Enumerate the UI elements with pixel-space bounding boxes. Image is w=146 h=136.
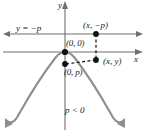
x-axis-label: x [134,55,138,64]
focus-label: (0, p) [64,68,82,77]
y-axis-arrowhead [62,1,68,9]
vertex-label: (0, 0) [66,39,84,48]
y-axis-label: y [58,1,62,10]
point-on-curve [93,57,99,63]
directrix-left-arrowhead [3,31,10,37]
parabola-figure: y = −p (x, −p) (0, 0) (x, y) (0, p) p < … [0,0,146,136]
directrix-right-arrowhead [136,31,143,37]
point-on-curve-label: (x, y) [103,57,121,66]
condition-label: p < 0 [65,106,85,115]
directrix-label: y = −p [16,24,41,33]
x-axis-line [3,49,143,55]
point-vertex [62,49,68,55]
focal-chord-dashed [66,60,95,64]
point-on-directrix [93,31,99,37]
point-on-directrix-label: (x, −p) [83,21,108,30]
